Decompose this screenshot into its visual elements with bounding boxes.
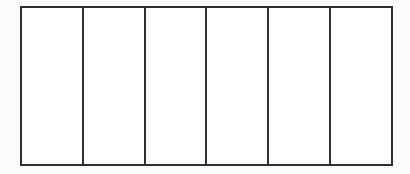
cell-3 — [146, 8, 208, 164]
cell-2 — [84, 8, 146, 164]
six-cell-strip — [20, 6, 393, 166]
cell-6 — [331, 8, 391, 164]
cell-1 — [22, 8, 84, 164]
cell-5 — [269, 8, 331, 164]
cell-4 — [207, 8, 269, 164]
